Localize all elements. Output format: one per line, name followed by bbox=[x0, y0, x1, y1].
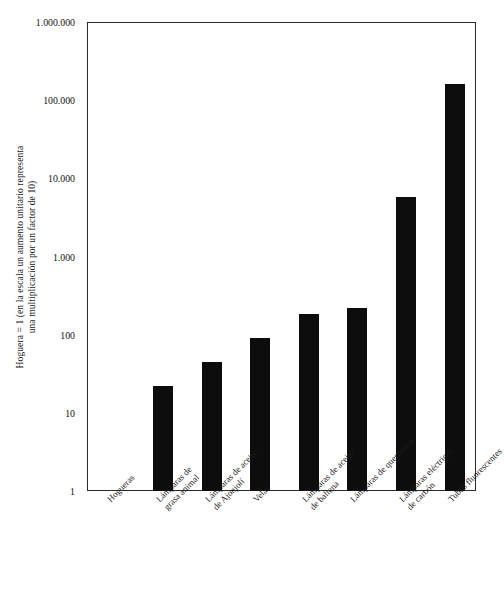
y-tick-label: 1.000 bbox=[53, 251, 75, 262]
y-tick-label: 10 bbox=[65, 407, 75, 418]
bar bbox=[445, 84, 465, 491]
bar bbox=[153, 386, 173, 491]
x-axis-tick-labels: HoguerasLámparas degrasa animalLámparas … bbox=[0, 491, 490, 595]
bar bbox=[202, 362, 222, 491]
y-tick-label: 100.000 bbox=[43, 95, 75, 106]
bars-layer bbox=[87, 22, 476, 491]
y-tick-label: 10.000 bbox=[48, 173, 75, 184]
y-tick-label: 1.000.000 bbox=[36, 17, 75, 28]
y-tick-label: 100 bbox=[60, 329, 75, 340]
bar bbox=[299, 314, 319, 491]
